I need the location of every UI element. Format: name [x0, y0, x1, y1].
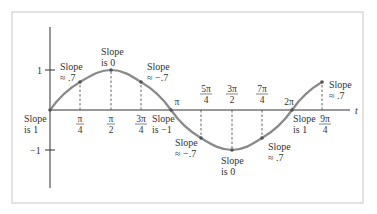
svg-text:2: 2 [109, 125, 114, 135]
svg-text:is 0: is 0 [221, 166, 235, 177]
svg-text:is 1: is 1 [293, 124, 307, 135]
svg-text:Slope: Slope [101, 46, 124, 57]
svg-text:is 1: is 1 [24, 124, 38, 135]
x-axis-label: t [355, 105, 358, 116]
svg-text:Slope: Slope [329, 79, 352, 90]
svg-text:2π: 2π [284, 97, 294, 107]
y-tick-label-neg1: −1 [30, 145, 41, 156]
svg-text:4: 4 [78, 125, 83, 135]
svg-text:4: 4 [323, 125, 328, 135]
svg-text:≈ −.7: ≈ −.7 [175, 148, 196, 159]
figure-frame [12, 12, 363, 203]
y-tick-label-1: 1 [37, 65, 42, 76]
svg-text:7π: 7π [257, 84, 267, 94]
sine-slope-diagram: t 1 −1 π 4 π 2 [0, 0, 377, 214]
tick-2pi: 2π [284, 97, 294, 107]
slope-at-3pi-over-4: Slope ≈ −.7 [147, 61, 170, 83]
svg-text:Slope: Slope [152, 113, 175, 124]
svg-text:Slope: Slope [221, 155, 244, 166]
svg-text:≈ .7: ≈ .7 [268, 152, 284, 163]
svg-text:Slope: Slope [24, 113, 47, 124]
svg-text:Slope: Slope [60, 61, 83, 72]
svg-text:π: π [109, 114, 114, 124]
svg-text:is 0: is 0 [101, 57, 115, 68]
svg-text:4: 4 [204, 95, 209, 105]
svg-text:3π: 3π [227, 84, 237, 94]
svg-text:≈ .7: ≈ .7 [60, 72, 76, 83]
svg-text:4: 4 [260, 95, 265, 105]
svg-text:≈ .7: ≈ .7 [329, 90, 345, 101]
svg-text:π: π [175, 97, 180, 107]
svg-text:5π: 5π [201, 84, 211, 94]
svg-text:9π: 9π [320, 114, 330, 124]
svg-text:4: 4 [139, 125, 144, 135]
svg-text:Slope: Slope [147, 61, 170, 72]
svg-text:2: 2 [230, 95, 235, 105]
svg-text:Slope: Slope [293, 113, 316, 124]
svg-text:≈ −.7: ≈ −.7 [147, 72, 168, 83]
svg-text:3π: 3π [136, 114, 146, 124]
svg-text:Slope: Slope [268, 141, 291, 152]
svg-text:π: π [78, 114, 83, 124]
tick-pi: π [175, 97, 180, 107]
slope-at-5pi-over-4: Slope ≈ −.7 [175, 137, 198, 159]
svg-text:Slope: Slope [175, 137, 198, 148]
svg-text:is −1: is −1 [152, 124, 172, 135]
